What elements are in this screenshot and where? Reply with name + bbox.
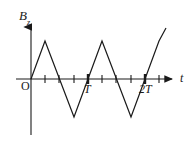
- x-tick-label-two-period: 2T: [139, 83, 152, 95]
- waveform-trace: [31, 28, 166, 117]
- magnetic-field-waveform-figure: Bz t O T 2T: [0, 0, 191, 151]
- y-axis-label: Bz: [19, 9, 30, 26]
- x-tick-label-period: T: [84, 83, 91, 95]
- y-axis-label-subscript: z: [27, 18, 30, 27]
- origin-label: O: [21, 80, 30, 92]
- y-axis-label-base: B: [19, 8, 27, 23]
- x-axis-label: t: [180, 72, 183, 84]
